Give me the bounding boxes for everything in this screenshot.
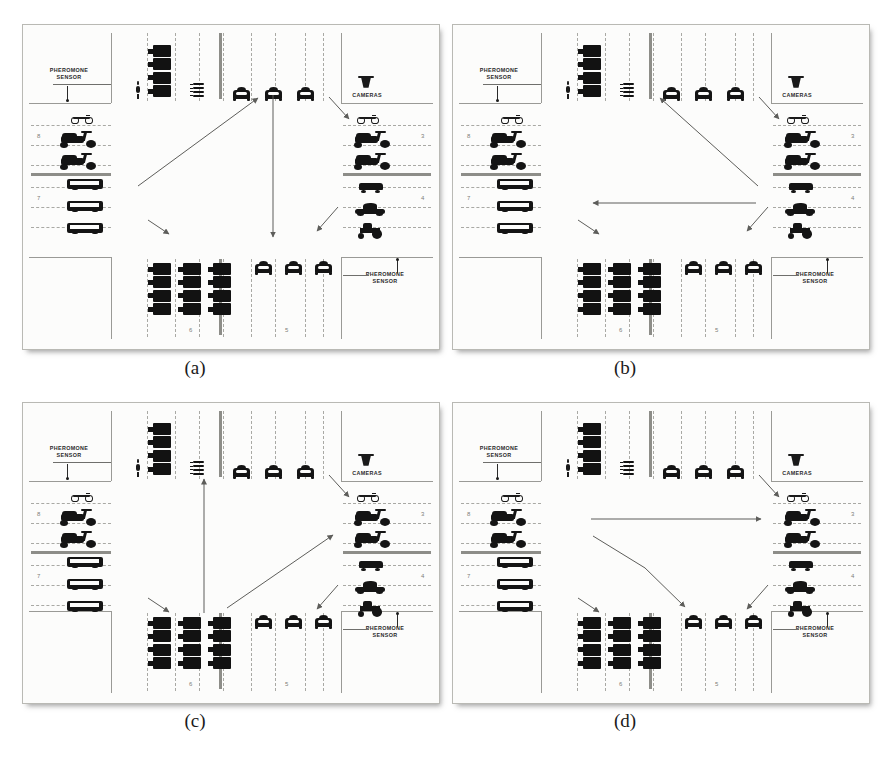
lane-number-3: 3 [421, 133, 424, 139]
caption-c: (c) [165, 710, 225, 732]
lane-divider-dashed [681, 613, 682, 691]
lane-number-7: 7 [37, 573, 40, 579]
bus-icon [497, 201, 533, 211]
bicycle-icon [71, 493, 93, 502]
heavy-block [643, 644, 661, 656]
heavy-block [583, 290, 601, 302]
scooter-icon [353, 153, 391, 170]
heavy-block-nub [608, 661, 614, 666]
queued-heavy-vehicle-icon [183, 617, 201, 669]
heavy-block [183, 657, 201, 669]
lane-divider-solid [649, 33, 652, 99]
heavy-block-nub [578, 440, 584, 445]
heavy-block-nub [608, 621, 614, 626]
heavy-block [193, 87, 204, 89]
lane-divider-dashed [343, 125, 431, 126]
road-edge-line [771, 257, 772, 339]
road-edge-line [341, 33, 342, 103]
pheromone-sensor-label-bottom-right: PHEROMONE SENSOR [791, 271, 839, 285]
flow-arrow-bottom-left-bus-hook [578, 598, 599, 612]
heavy-block-nub [178, 280, 184, 285]
camera-icon [355, 73, 377, 91]
road-edge-line [111, 411, 112, 481]
lane-number-8: 8 [37, 133, 40, 139]
heavy-block [613, 657, 631, 669]
panel-a-inner: CAMERASPHEROMONE SENSORPHEROMONE SENSOR8… [23, 25, 439, 349]
heavy-block [583, 276, 601, 288]
heavy-block [623, 83, 634, 85]
sensor-node [396, 612, 399, 615]
heavy-block [153, 657, 171, 669]
heavy-block-nub [208, 634, 214, 639]
car-front-icon [695, 465, 712, 479]
pheromone-sensor-label-top-left: PHEROMONE SENSOR [45, 445, 93, 459]
panel-b[interactable]: CAMERASPHEROMONE SENSORPHEROMONE SENSOR8… [452, 24, 870, 350]
heavy-block [623, 87, 634, 89]
heavy-block-nub [638, 280, 644, 285]
lane-divider-dashed [735, 613, 736, 691]
lane-divider-dashed [305, 613, 306, 691]
sensor-leader-line [343, 629, 369, 630]
pedestrian-icon [565, 81, 571, 99]
heavy-block-nub [148, 89, 154, 94]
panel-b-inner: CAMERASPHEROMONE SENSORPHEROMONE SENSOR8… [453, 25, 869, 349]
heavy-block-nub [178, 267, 184, 272]
heavy-block [193, 83, 204, 85]
panel-c[interactable]: CAMERASPHEROMONE SENSORPHEROMONE SENSOR8… [22, 402, 440, 704]
sports-car-icon [785, 581, 815, 594]
panel-a[interactable]: CAMERASPHEROMONE SENSORPHEROMONE SENSOR8… [22, 24, 440, 350]
lane-number-4: 4 [851, 573, 854, 579]
lane-divider-dashed [753, 33, 754, 101]
road-edge-line [771, 33, 772, 103]
road-edge-line [111, 257, 112, 339]
lane-divider-solid [31, 551, 111, 554]
heavy-block-nub [190, 462, 194, 463]
heavy-block [583, 630, 601, 642]
heavy-block [583, 657, 601, 669]
van-icon [789, 559, 813, 571]
heavy-block [153, 630, 171, 642]
car-front-icon [663, 465, 680, 479]
panel-c-inner: CAMERASPHEROMONE SENSORPHEROMONE SENSOR8… [23, 403, 439, 703]
pheromone-sensor-label-top-left: PHEROMONE SENSOR [475, 445, 523, 459]
lane-divider-dashed [773, 125, 861, 126]
heavy-block-nub [620, 473, 624, 474]
flow-arrow-top-right-to-scooter [329, 475, 349, 497]
bus-icon [67, 557, 103, 567]
lane-divider-dashed [223, 33, 224, 101]
panel-d[interactable]: CAMERASPHEROMONE SENSORPHEROMONE SENSOR8… [452, 402, 870, 704]
bicycle-icon [787, 115, 809, 124]
heavy-block-nub [190, 466, 194, 467]
lane-divider-dashed [175, 259, 176, 337]
heavy-block-nub [578, 49, 584, 54]
scooter-icon [59, 509, 97, 526]
lane-number-3: 3 [421, 511, 424, 517]
sensor-leader-line [53, 462, 111, 463]
car-front-icon [297, 87, 314, 101]
heavy-block [583, 423, 601, 435]
heavy-block [183, 630, 201, 642]
heavy-block-nub [178, 621, 184, 626]
lane-number-3: 3 [851, 133, 854, 139]
heavy-block-nub [638, 647, 644, 652]
road-edge-line [541, 611, 542, 693]
lane-divider-dashed [605, 33, 606, 101]
lane-number-3: 3 [851, 511, 854, 517]
bicycle-icon [501, 115, 523, 124]
heavy-block [613, 644, 631, 656]
sensor-leader-line [483, 462, 541, 463]
heavy-block-nub [638, 661, 644, 666]
heavy-block [213, 630, 231, 642]
heavy-block [623, 461, 634, 463]
flow-arrow-scooter-to-bottom-car [593, 536, 685, 607]
heavy-block [583, 617, 601, 629]
heavy-block [183, 617, 201, 629]
car-front-icon [265, 87, 282, 101]
road-edge-line [541, 257, 542, 339]
lane-divider-solid [461, 551, 541, 554]
heavy-block-nub [608, 634, 614, 639]
road-edge-line [459, 257, 541, 258]
lane-number-6: 6 [189, 327, 192, 333]
lane-divider-dashed [461, 125, 541, 126]
flow-arrow-tractor-to-bottom-car [317, 207, 338, 231]
